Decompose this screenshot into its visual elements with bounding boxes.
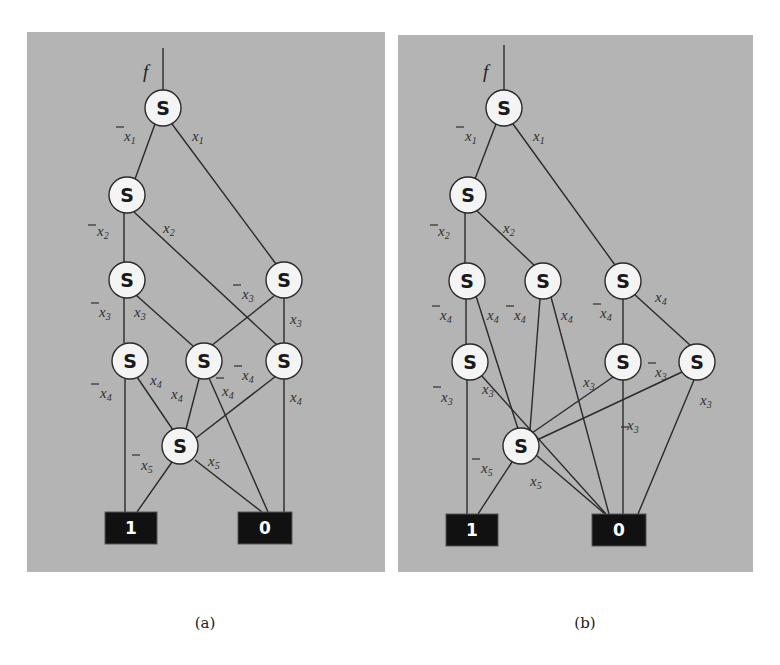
- bdd-node-a5: S: [112, 343, 148, 379]
- panel-b-background: [398, 35, 753, 572]
- bdd-node-b3: S: [449, 263, 485, 299]
- svg-text:S: S: [460, 270, 474, 292]
- panel-b: f x1 x1 x2 x2 x4 x4 x4 x4 x4 x4 x3 x3 x3…: [398, 35, 753, 632]
- bdd-node-b1: S: [486, 90, 522, 126]
- terminal-zero-b: 0: [592, 514, 646, 546]
- terminal-one-a: 1: [105, 512, 157, 544]
- panel-a-background: [27, 32, 385, 572]
- bdd-node-a8: S: [162, 428, 198, 464]
- bdd-node-b4: S: [525, 263, 561, 299]
- svg-text:S: S: [690, 351, 704, 373]
- bdd-node-a3: S: [109, 262, 145, 298]
- bdd-node-b8: S: [679, 344, 715, 380]
- svg-text:S: S: [197, 350, 211, 372]
- svg-text:S: S: [123, 350, 137, 372]
- terminal-one-b: 1: [446, 514, 498, 546]
- bdd-node-a1: S: [145, 90, 181, 126]
- svg-text:S: S: [156, 97, 170, 119]
- terminal-zero-a: 0: [238, 512, 292, 544]
- bdd-node-b5: S: [605, 263, 641, 299]
- bdd-node-a6: S: [186, 343, 222, 379]
- bdd-node-a7: S: [266, 343, 302, 379]
- svg-text:1: 1: [466, 520, 478, 540]
- bdd-node-b6: S: [452, 344, 488, 380]
- svg-text:S: S: [120, 184, 134, 206]
- bdd-node-b2: S: [450, 177, 486, 213]
- bdd-node-a4: S: [266, 262, 302, 298]
- bdd-node-b9: S: [503, 428, 539, 464]
- svg-text:S: S: [120, 269, 134, 291]
- svg-text:0: 0: [259, 518, 271, 538]
- svg-text:S: S: [536, 270, 550, 292]
- panel-a: f x1 x1 x2 x2 x3 x3 x3 x3 x4 x4 x4 x4 x4…: [27, 32, 385, 632]
- svg-text:S: S: [497, 97, 511, 119]
- bdd-figure: f x1 x1 x2 x2 x3 x3 x3 x3 x4 x4 x4 x4 x4…: [0, 0, 780, 665]
- svg-text:S: S: [616, 351, 630, 373]
- caption-a: (a): [195, 614, 216, 632]
- caption-b: (b): [574, 614, 595, 632]
- bdd-node-a2: S: [109, 177, 145, 213]
- svg-text:S: S: [514, 435, 528, 457]
- svg-text:S: S: [461, 184, 475, 206]
- svg-text:S: S: [463, 351, 477, 373]
- svg-text:0: 0: [613, 520, 625, 540]
- svg-text:S: S: [277, 269, 291, 291]
- bdd-node-b7: S: [605, 344, 641, 380]
- svg-text:S: S: [277, 350, 291, 372]
- svg-text:1: 1: [125, 518, 137, 538]
- svg-text:S: S: [173, 435, 187, 457]
- svg-text:S: S: [616, 270, 630, 292]
